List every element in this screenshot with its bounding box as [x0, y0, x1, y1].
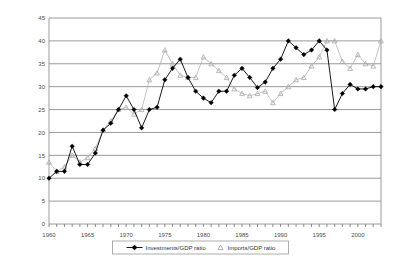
chart-legend: Investments/GDP ratioImports/GDP ratio	[113, 241, 289, 254]
x-tick-label: 1990	[274, 232, 288, 238]
legend-label-investments: Investments/GDP ratio	[146, 245, 207, 251]
y-tick-label: 45	[38, 15, 45, 21]
y-tick-label: 10	[38, 175, 45, 181]
y-tick-label: 0	[42, 221, 46, 227]
legend-label-imports: Imports/GDP ratio	[228, 245, 277, 251]
x-tick-label: 1960	[42, 232, 56, 238]
x-tick-label: 1965	[81, 232, 95, 238]
y-tick-label: 25	[38, 107, 45, 113]
y-tick-label: 5	[42, 198, 46, 204]
x-tick-label: 2000	[351, 232, 365, 238]
y-tick-label: 15	[38, 153, 45, 159]
x-tick-label: 1980	[197, 232, 211, 238]
x-tick-label: 1985	[235, 232, 249, 238]
chart-container: 0510152025303540451960196519701975198019…	[0, 0, 397, 259]
y-tick-label: 30	[38, 84, 45, 90]
x-tick-label: 1995	[313, 232, 327, 238]
x-tick-label: 1975	[158, 232, 172, 238]
y-tick-label: 20	[38, 130, 45, 136]
x-tick-label: 1970	[120, 232, 134, 238]
line-chart: 0510152025303540451960196519701975198019…	[0, 0, 397, 259]
plot-area	[49, 18, 381, 224]
x-axis: 196019651970197519801985199019952000	[42, 224, 381, 238]
y-tick-label: 40	[38, 38, 45, 44]
y-tick-label: 35	[38, 61, 45, 67]
